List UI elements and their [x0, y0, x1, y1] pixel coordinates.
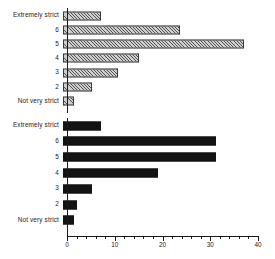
- bar-track: [63, 8, 275, 23]
- bar: [63, 11, 101, 20]
- bar-track: [63, 118, 275, 133]
- bar-row: 3: [0, 181, 275, 196]
- upper-panel-axis-spine: [67, 8, 68, 113]
- x-tick-minor: [143, 236, 144, 239]
- bar-row: Not very strict: [0, 94, 275, 109]
- x-tick-label: 20: [159, 242, 166, 248]
- x-tick-minor: [105, 236, 106, 239]
- bar-row: 6: [0, 134, 275, 149]
- category-label: 6: [0, 27, 63, 33]
- x-tick-minor: [248, 236, 249, 239]
- upper-panel-rows: Extremely strict65432Not very strict: [0, 8, 275, 113]
- lower-panel-rows: Extremely strict65432Not very strict: [0, 118, 275, 233]
- category-label: 3: [0, 185, 63, 191]
- category-label: 5: [0, 154, 63, 160]
- x-tick-label: 30: [207, 242, 214, 248]
- x-tick-minor: [86, 236, 87, 239]
- category-label: 2: [0, 201, 63, 207]
- x-tick-major: [163, 236, 164, 241]
- bar: [63, 97, 74, 106]
- category-label: 4: [0, 170, 63, 176]
- category-label: Not very strict: [0, 217, 63, 223]
- bar: [63, 121, 101, 130]
- bar-track: [63, 150, 275, 165]
- bar-row: 3: [0, 65, 275, 80]
- x-tick-label: 40: [254, 242, 261, 248]
- category-label: 4: [0, 55, 63, 61]
- x-tick-minor: [77, 236, 78, 239]
- category-label: 5: [0, 41, 63, 47]
- bar-row: 6: [0, 22, 275, 37]
- bar: [63, 54, 139, 63]
- x-tick-label: 0: [65, 242, 69, 248]
- bar-row: Extremely strict: [0, 8, 275, 23]
- bar-track: [63, 22, 275, 37]
- x-tick-minor: [191, 236, 192, 239]
- bar: [63, 137, 216, 146]
- bar-track: [63, 65, 275, 80]
- bar: [63, 25, 180, 34]
- bar-track: [63, 181, 275, 196]
- x-tick-minor: [134, 236, 135, 239]
- bar-track: [63, 213, 275, 228]
- x-tick-minor: [201, 236, 202, 239]
- chart-figure: Extremely strict65432Not very strict Ext…: [0, 0, 275, 259]
- bar-row: 4: [0, 51, 275, 66]
- category-label: 2: [0, 84, 63, 90]
- bar-track: [63, 37, 275, 52]
- bar-row: Extremely strict: [0, 118, 275, 133]
- category-label: 6: [0, 138, 63, 144]
- bar-track: [63, 134, 275, 149]
- x-tick-major: [67, 236, 68, 241]
- bar-track: [63, 80, 275, 95]
- bar: [63, 200, 77, 209]
- x-tick-major: [210, 236, 211, 241]
- x-tick-minor: [96, 236, 97, 239]
- x-tick-minor: [229, 236, 230, 239]
- x-axis: 010203040: [0, 236, 275, 259]
- category-label: 3: [0, 69, 63, 75]
- x-tick-label: 10: [111, 242, 118, 248]
- x-tick-minor: [220, 236, 221, 239]
- bar: [63, 40, 244, 49]
- bar-row: 4: [0, 165, 275, 180]
- bar: [63, 68, 118, 77]
- bar-row: Not very strict: [0, 213, 275, 228]
- category-label: Extremely strict: [0, 122, 63, 128]
- bar-track: [63, 51, 275, 66]
- bar: [63, 168, 158, 177]
- x-tick-minor: [182, 236, 183, 239]
- bar-track: [63, 165, 275, 180]
- x-tick-major: [115, 236, 116, 241]
- bar-row: 2: [0, 80, 275, 95]
- x-tick-minor: [153, 236, 154, 239]
- upper-bar-panel: Extremely strict65432Not very strict: [0, 8, 275, 113]
- bar-track: [63, 197, 275, 212]
- bar-track: [63, 94, 275, 109]
- category-label: Not very strict: [0, 98, 63, 104]
- lower-panel-axis-spine: [67, 118, 68, 236]
- bar: [63, 216, 74, 225]
- x-tick-major: [258, 236, 259, 241]
- x-tick-minor: [172, 236, 173, 239]
- bar-row: 2: [0, 197, 275, 212]
- bar-row: 5: [0, 150, 275, 165]
- lower-bar-panel: Extremely strict65432Not very strict: [0, 118, 275, 233]
- x-tick-minor: [239, 236, 240, 239]
- x-tick-minor: [124, 236, 125, 239]
- bar-row: 5: [0, 37, 275, 52]
- bar: [63, 153, 216, 162]
- category-label: Extremely strict: [0, 12, 63, 18]
